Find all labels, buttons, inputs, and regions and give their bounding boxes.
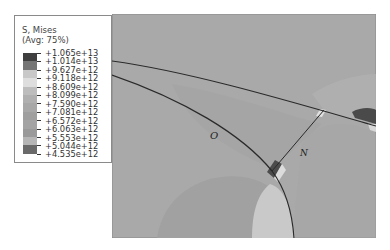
- legend-tick: [37, 137, 41, 138]
- legend-swatch: [23, 87, 37, 95]
- legend-tick: [37, 78, 41, 79]
- legend-tick: [37, 70, 41, 71]
- legend-color-bar: [23, 53, 37, 154]
- legend-swatch: [23, 53, 37, 61]
- legend-tick: [37, 112, 41, 113]
- legend-swatch: [23, 137, 37, 145]
- legend-swatch: [23, 120, 37, 128]
- legend-value: +4.535e+12: [45, 150, 98, 158]
- legend-value-labels: +1.065e+13+1.014e+13+9.627e+12+9.118e+12…: [45, 49, 98, 159]
- legend-swatch: [23, 145, 37, 153]
- legend-tick: [37, 61, 41, 62]
- label-o: O: [210, 130, 218, 141]
- legend-swatch: [23, 95, 37, 103]
- legend-tick: [37, 103, 41, 104]
- contour-plot: O N: [112, 14, 376, 238]
- legend-title: S, Mises (Avg: 75%): [22, 25, 69, 45]
- legend-tick: [37, 145, 41, 146]
- legend-tick: [37, 87, 41, 88]
- legend: S, Mises (Avg: 75%) +1.065e+13+1.014e+13…: [14, 15, 112, 163]
- legend-tick: [37, 120, 41, 121]
- legend-tick: [37, 154, 41, 155]
- legend-tick: [37, 129, 41, 130]
- legend-swatch: [23, 61, 37, 69]
- legend-swatch: [23, 129, 37, 137]
- label-n: N: [300, 148, 308, 158]
- legend-title-line1: S, Mises: [22, 25, 69, 35]
- legend-swatch: [23, 78, 37, 86]
- legend-title-line2: (Avg: 75%): [22, 35, 69, 45]
- legend-tick: [37, 53, 41, 54]
- mesh-contour-svg: [112, 14, 376, 238]
- legend-swatch: [23, 70, 37, 78]
- legend-swatch: [23, 103, 37, 111]
- legend-swatch: [23, 112, 37, 120]
- legend-tick: [37, 95, 41, 96]
